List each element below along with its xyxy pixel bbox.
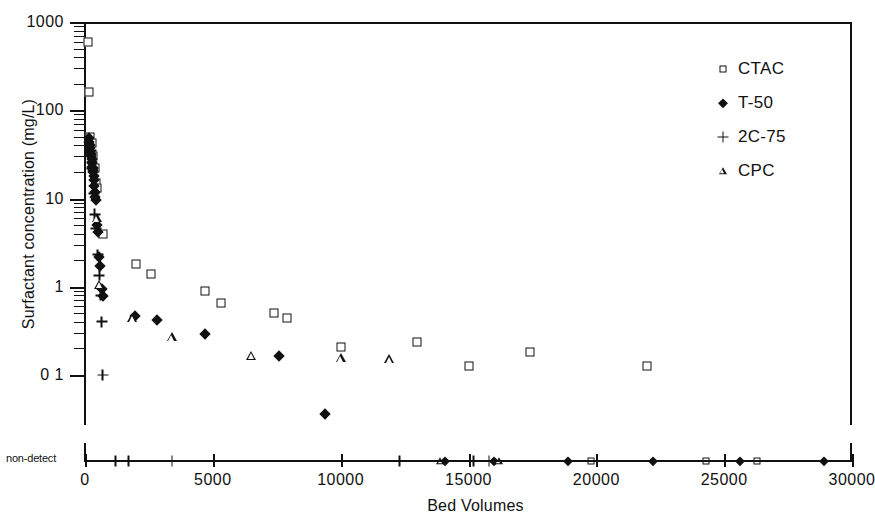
data-point-ctac xyxy=(336,343,345,352)
data-point-ctac xyxy=(84,88,93,97)
y-axis-minor-tick xyxy=(74,31,85,32)
legend-item-t-50[interactable]: T-50 xyxy=(712,86,786,120)
y-axis-minor-tick xyxy=(74,306,85,307)
data-point-cpc xyxy=(167,332,177,341)
legend-marker-plus xyxy=(712,128,738,146)
y-axis-tick xyxy=(70,375,85,377)
data-point-ctac xyxy=(464,362,473,371)
y-axis-minor-tick xyxy=(74,348,85,349)
y-axis-minor-tick xyxy=(74,57,85,58)
data-point-2c-75 xyxy=(87,163,98,174)
y-axis-minor-tick xyxy=(74,245,85,246)
x-axis-tick xyxy=(213,454,215,467)
legend-item-label: CPC xyxy=(738,161,775,181)
y-axis-tick xyxy=(70,287,85,289)
legend-item-label: CTAC xyxy=(738,59,784,79)
y-axis-minor-tick xyxy=(74,49,85,50)
y-axis-minor-tick xyxy=(74,333,85,334)
legend-item-2c-75[interactable]: 2C-75 xyxy=(712,120,786,154)
x-axis-tick xyxy=(852,454,854,467)
legend-marker-open-triangle xyxy=(712,162,738,180)
y-axis-minor-tick xyxy=(74,130,85,131)
x-axis-tick-label: 30000 xyxy=(807,472,875,488)
data-point-cpc xyxy=(127,313,137,322)
y-axis-tick-label: 1000 xyxy=(2,14,64,30)
data-point-ctac xyxy=(413,338,422,347)
y-axis-minor-tick xyxy=(74,212,85,213)
data-point-2c-75 xyxy=(97,370,108,381)
x-axis-tick xyxy=(341,454,343,467)
chart-figure: 10001001010 1 Surfactant concentration (… xyxy=(0,0,875,521)
x-axis-title-text: Bed Volumes xyxy=(427,497,523,514)
data-point-ctac xyxy=(132,260,141,269)
data-point-ctac xyxy=(201,286,210,295)
y-axis-minor-tick xyxy=(74,225,85,226)
y-axis-minor-tick xyxy=(74,84,85,85)
legend-item-label: T-50 xyxy=(738,93,773,113)
y-axis-minor-tick xyxy=(74,260,85,261)
x-axis-tick-label: 0 xyxy=(40,472,130,488)
legend-item-cpc[interactable]: CPC xyxy=(712,154,786,188)
chart-legend: CTACT-502C-75CPC xyxy=(712,52,786,188)
data-point-cpc xyxy=(92,213,102,222)
data-point-2c-75 xyxy=(92,249,103,260)
y-axis-minor-tick xyxy=(74,234,85,235)
x-axis-tick-label: 15000 xyxy=(424,472,514,488)
x-axis-tick xyxy=(469,454,471,467)
y-axis-title: Surfactant concentration (mg/L) xyxy=(20,54,38,374)
data-point-cpc xyxy=(94,280,104,289)
y-axis-tick xyxy=(70,110,85,112)
nondetect-axis-label: non-detect xyxy=(6,452,56,464)
x-axis-tick xyxy=(596,454,598,467)
y-axis-tick xyxy=(70,199,85,201)
y-axis-tick xyxy=(70,22,85,24)
legend-marker-open-square xyxy=(712,60,738,78)
y-axis-minor-tick xyxy=(74,114,85,115)
data-point-ctac xyxy=(270,309,279,318)
data-point-ctac xyxy=(216,298,225,307)
y-axis-minor-tick xyxy=(74,218,85,219)
y-axis-minor-tick xyxy=(74,172,85,173)
y-axis-minor-tick xyxy=(74,68,85,69)
y-axis-minor-tick xyxy=(74,322,85,323)
marker-open-triangle xyxy=(719,167,727,174)
marker-open-square xyxy=(720,66,727,73)
data-point-ctac xyxy=(147,269,156,278)
x-axis-tick xyxy=(85,454,87,467)
x-axis-tick-label: 10000 xyxy=(296,472,386,488)
y-axis-minor-tick xyxy=(74,145,85,146)
data-point-ctac xyxy=(525,348,534,357)
data-point-cpc xyxy=(246,351,256,360)
y-axis-minor-tick xyxy=(74,313,85,314)
x-axis-tick-label: 5000 xyxy=(168,472,258,488)
x-axis-tick xyxy=(724,454,726,467)
data-point-cpc xyxy=(336,353,346,362)
data-point-cpc xyxy=(384,354,394,363)
data-point-ctac xyxy=(282,314,291,323)
x-axis-tick-label: 25000 xyxy=(679,472,769,488)
y-axis-minor-tick xyxy=(74,124,85,125)
legend-marker-filled-diamond xyxy=(712,94,738,112)
y-axis-minor-tick xyxy=(74,26,85,27)
legend-item-ctac[interactable]: CTAC xyxy=(712,52,786,86)
legend-item-label: 2C-75 xyxy=(738,127,786,147)
y-axis-minor-tick xyxy=(74,203,85,204)
x-axis-tick-label: 20000 xyxy=(551,472,641,488)
marker-filled-diamond xyxy=(718,98,727,107)
y-axis-minor-tick xyxy=(74,291,85,292)
data-point-ctac xyxy=(643,361,652,370)
y-axis-minor-tick xyxy=(74,300,85,301)
data-point-2c-75 xyxy=(90,223,101,234)
y-axis-line xyxy=(84,22,86,425)
data-point-2c-75 xyxy=(85,145,96,156)
y-axis-minor-tick xyxy=(74,295,85,296)
marker-plus xyxy=(718,132,729,143)
x-axis-title: Bed Volumes xyxy=(0,497,875,515)
data-point-2c-75 xyxy=(88,188,99,199)
data-point-2c-75 xyxy=(95,290,106,301)
y-axis-minor-tick xyxy=(74,156,85,157)
data-point-ctac xyxy=(84,37,93,46)
y-axis-minor-tick xyxy=(74,207,85,208)
y-axis-minor-tick xyxy=(74,119,85,120)
data-point-2c-75 xyxy=(96,316,107,327)
